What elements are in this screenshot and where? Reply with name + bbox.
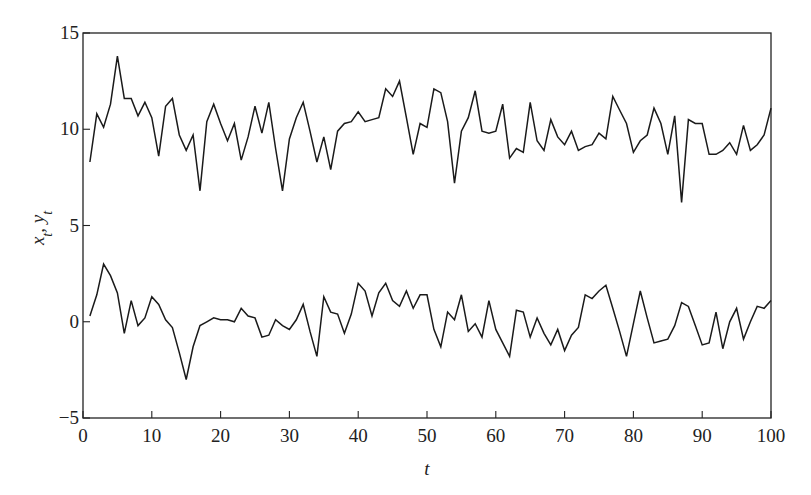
- x-tick-label: 90: [693, 425, 712, 446]
- x-tick-label: 20: [211, 425, 230, 446]
- x-tick-label: 100: [757, 425, 786, 446]
- y-axis-label: xt, yt: [27, 210, 55, 246]
- y-tick-label: 0: [70, 311, 80, 332]
- y-tick-label: 5: [70, 215, 80, 236]
- series-x-t: [90, 56, 771, 202]
- series-y-t: [90, 264, 771, 380]
- axis-ticks: 0102030405060708090100−5051015: [59, 22, 785, 446]
- x-tick-label: 50: [418, 425, 437, 446]
- y-tick-label: 15: [60, 22, 79, 43]
- x-tick-label: 0: [78, 425, 88, 446]
- axes: [83, 33, 771, 418]
- time-series-chart: 0102030405060708090100−5051015 t xt, yt: [0, 0, 811, 495]
- x-tick-label: 80: [624, 425, 643, 446]
- x-tick-label: 60: [486, 425, 505, 446]
- x-tick-label: 10: [142, 425, 161, 446]
- y-tick-label: 10: [60, 118, 79, 139]
- plot-frame: [83, 33, 771, 418]
- y-tick-label: −5: [59, 407, 79, 428]
- x-tick-label: 40: [349, 425, 368, 446]
- x-tick-label: 70: [555, 425, 574, 446]
- x-axis-label: t: [424, 458, 430, 479]
- series-lines: [90, 56, 771, 379]
- x-tick-label: 30: [280, 425, 299, 446]
